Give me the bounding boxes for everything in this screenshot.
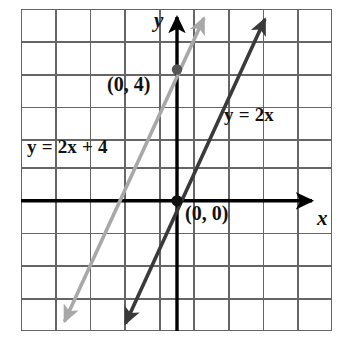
graph-figure: y = 2x + 4 y = 2x (0, 4) (0, 0) y x <box>0 0 351 360</box>
point-0-0 <box>171 195 182 206</box>
coordinate-plane-svg <box>0 0 351 360</box>
point-0-4 <box>172 64 182 74</box>
